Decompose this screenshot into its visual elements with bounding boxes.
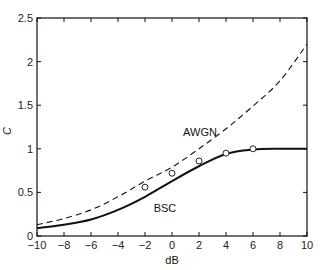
x-tick-label: −2 bbox=[139, 239, 152, 251]
x-axis-label: dB bbox=[165, 254, 178, 266]
x-tick-label: 2 bbox=[196, 239, 202, 251]
x-tick-label: −8 bbox=[58, 239, 71, 251]
y-axis-label: C bbox=[1, 127, 13, 135]
awgn-label: AWGN bbox=[183, 126, 217, 138]
y-tick-label: 0.5 bbox=[18, 186, 33, 198]
capacity-chart: −10−8−6−4−2024681000.511.522.5 dB C AWGN… bbox=[0, 0, 327, 270]
data-point-marker bbox=[142, 184, 148, 190]
y-tick-label: 1.5 bbox=[18, 99, 33, 111]
x-tick-label: −6 bbox=[85, 239, 98, 251]
data-point-marker bbox=[196, 158, 202, 164]
data-point-marker bbox=[250, 146, 256, 152]
x-tick-label: 8 bbox=[277, 239, 283, 251]
y-tick-label: 2 bbox=[27, 56, 33, 68]
data-point-marker bbox=[223, 150, 229, 156]
bsc-curve bbox=[37, 149, 307, 228]
x-tick-label: 6 bbox=[250, 239, 256, 251]
data-point-marker bbox=[169, 170, 175, 176]
bsc-label: BSC bbox=[154, 202, 177, 214]
x-tick-label: 10 bbox=[301, 239, 313, 251]
y-tick-label: 2.5 bbox=[18, 12, 33, 24]
y-tick-label: 0 bbox=[27, 230, 33, 242]
y-tick-label: 1 bbox=[27, 143, 33, 155]
x-tick-label: 4 bbox=[223, 239, 229, 251]
axis-ticks: −10−8−6−4−2024681000.511.522.5 bbox=[18, 12, 313, 251]
x-tick-label: −4 bbox=[112, 239, 125, 251]
x-tick-label: 0 bbox=[169, 239, 175, 251]
awgn-curve bbox=[37, 44, 307, 225]
curves bbox=[37, 44, 307, 228]
